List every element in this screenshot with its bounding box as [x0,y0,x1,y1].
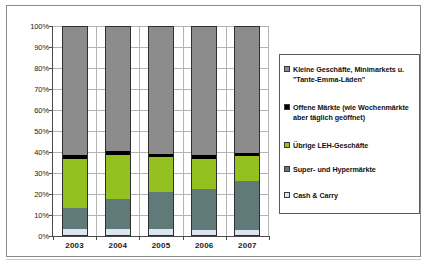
vertical-gridline [226,26,227,236]
bar-segment[interactable] [105,26,131,151]
y-axis-tick-label: 40% [9,148,49,157]
figure-frame: 0%10%20%30%40%50%60%70%80%90%100% 200320… [6,5,421,257]
bar-segment[interactable] [191,159,217,190]
y-axis-tick-label: 10% [9,211,49,220]
legend-item[interactable]: Offene Märkte (wie Wochenmärkte aber täg… [284,103,424,122]
vertical-gridline [268,26,269,236]
bar-segment[interactable] [148,229,174,236]
caption-rule [6,259,421,260]
bar-segment[interactable] [148,192,174,229]
bar-segment[interactable] [62,26,88,155]
bar-segment[interactable] [62,159,88,208]
legend-label: Cash & Carry [293,191,338,201]
bar-segment[interactable] [191,26,217,155]
y-axis-tick-label: 60% [9,106,49,115]
legend-label: Offene Märkte (wie Wochenmärkte aber täg… [293,103,409,122]
x-axis-tick-mark [139,236,140,240]
y-axis-tick-label: 100% [9,22,49,31]
y-axis-tick-mark [49,173,53,174]
bar-stack[interactable] [148,26,174,236]
y-axis-tick-label: 50% [9,127,49,136]
y-axis-tick-label: 70% [9,85,49,94]
bar-segment[interactable] [191,230,217,236]
bar-segment[interactable] [234,181,260,231]
vertical-gridline [96,26,97,236]
x-axis-tick-mark [53,236,54,240]
bar-segment[interactable] [62,229,88,236]
bar-segment[interactable] [62,208,88,229]
plot-area: 20032004200520062007 [52,26,269,237]
y-axis-tick-mark [49,131,53,132]
bar-segment[interactable] [105,229,131,236]
y-axis-tick-mark [49,152,53,153]
bar-segment[interactable] [148,26,174,153]
x-axis-tick-mark [269,236,270,240]
bar-segment[interactable] [105,155,131,199]
bar-segment[interactable] [105,199,131,229]
y-axis-tick-mark [49,26,53,27]
bar-segment[interactable] [234,230,260,236]
legend-item[interactable]: Super- und Hypermärkte [284,165,424,175]
y-axis-tick-label: 90% [9,43,49,52]
y-axis-tick-mark [49,47,53,48]
y-axis-tick-mark [49,194,53,195]
vertical-gridline [139,26,140,236]
y-axis-tick-mark [49,215,53,216]
cash-and-carry-swatch [284,192,290,198]
y-axis-labels: 0%10%20%30%40%50%60%70%80%90%100% [7,26,49,236]
bar-segment[interactable] [148,157,174,192]
bar-stack[interactable] [105,26,131,236]
uebrige-leh-swatch [284,142,290,148]
y-axis-tick-mark [49,68,53,69]
super-hyper-swatch [284,166,290,172]
legend-label: Übrige LEH-Geschäfte [293,141,368,151]
bar-segment[interactable] [234,26,260,153]
figure-page: 0%10%20%30%40%50%60%70%80%90%100% 200320… [0,0,427,272]
kleine-geschaefte-swatch [284,66,290,72]
x-axis-tick-label-2007: 2007 [222,241,272,250]
x-axis-tick-mark [226,236,227,240]
y-axis-tick-label: 80% [9,64,49,73]
x-axis-tick-mark [183,236,184,240]
y-axis-tick-label: 0% [9,232,49,241]
bar-segment[interactable] [191,189,217,230]
offene-maerkte-swatch [284,104,290,110]
bar-segment[interactable] [234,156,260,181]
vertical-gridline [183,26,184,236]
y-axis-tick-mark [49,110,53,111]
bar-stack[interactable] [234,26,260,236]
y-axis-tick-label: 20% [9,190,49,199]
bar-stack[interactable] [62,26,88,236]
legend-item[interactable]: Übrige LEH-Geschäfte [284,141,424,151]
y-axis-tick-label: 30% [9,169,49,178]
y-axis-tick-mark [49,89,53,90]
legend-label: Kleine Geschäfte, Minimarkets u. "Tante-… [293,65,404,84]
chart-legend: Kleine Geschäfte, Minimarkets u. "Tante-… [279,54,420,214]
bar-stack[interactable] [191,26,217,236]
x-axis-tick-mark [96,236,97,240]
legend-item[interactable]: Kleine Geschäfte, Minimarkets u. "Tante-… [284,65,424,84]
legend-label: Super- und Hypermärkte [293,165,376,175]
legend-item[interactable]: Cash & Carry [284,191,424,201]
